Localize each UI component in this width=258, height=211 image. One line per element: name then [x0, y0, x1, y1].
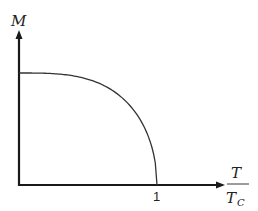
- x-tick-label-1: 1: [153, 189, 160, 204]
- magnetization-chart: M 1 T T C: [0, 0, 258, 211]
- x-axis-arrow-icon: [216, 182, 225, 189]
- y-axis-arrow-icon: [16, 30, 23, 39]
- y-axis-label: M: [10, 12, 27, 30]
- x-axis-label-denominator: T: [226, 189, 237, 207]
- x-axis-label-numerator: T: [231, 164, 242, 182]
- chart-canvas: M 1 T T C: [0, 0, 258, 211]
- magnetization-curve: [19, 73, 157, 185]
- x-axis-label-denominator-subscript: C: [237, 197, 245, 208]
